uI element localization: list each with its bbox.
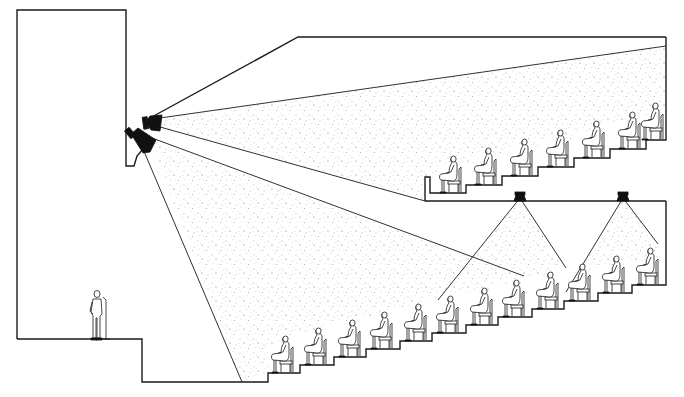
microphone-stand-icon — [102, 297, 110, 339]
delay-speaker-icon-1 — [514, 192, 526, 201]
presenter-figure — [90, 291, 102, 341]
delay-speaker-icon-2 — [617, 192, 629, 201]
upper-horn-speaker-icon — [142, 115, 162, 131]
auditorium-section-diagram — [0, 0, 684, 397]
proscenium-wall — [17, 10, 143, 339]
lower-horn-speaker-icon — [124, 127, 156, 153]
stage-floor — [17, 339, 242, 382]
